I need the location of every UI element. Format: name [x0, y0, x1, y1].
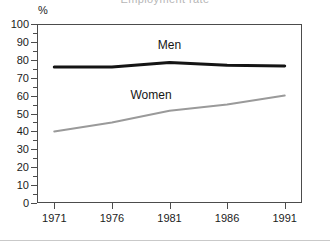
y-axis-tick-major — [31, 114, 37, 115]
y-axis-tick-minor — [33, 140, 37, 141]
x-axis-tick — [170, 203, 171, 209]
y-axis-tick-major — [31, 149, 37, 150]
x-axis-tick — [227, 203, 228, 209]
x-axis-tick-label: 1986 — [215, 212, 239, 224]
y-axis-tick-minor — [33, 176, 37, 177]
y-axis-tick-major — [31, 167, 37, 168]
y-axis-tick-major — [31, 185, 37, 186]
x-axis-tick-label: 1971 — [42, 212, 66, 224]
y-axis-tick-minor — [33, 194, 37, 195]
y-axis-tick-minor — [33, 87, 37, 88]
x-axis-tick — [285, 203, 286, 209]
figure-container: Employment rate % 0102030405060708090100… — [0, 0, 330, 244]
y-axis-tick-label: 70 — [17, 72, 29, 84]
y-axis-tick-label: 60 — [17, 90, 29, 102]
y-axis-tick-label: 80 — [17, 54, 29, 66]
y-axis-tick-label: 100 — [11, 18, 29, 30]
cropped-title-text: Employment rate — [0, 0, 330, 5]
y-axis-tick-label: 50 — [17, 108, 29, 120]
y-axis-tick-label: 10 — [17, 179, 29, 191]
x-axis-tick — [112, 203, 113, 209]
x-axis: 19711976198119861991 — [0, 203, 330, 244]
y-axis-tick-minor — [33, 122, 37, 123]
x-axis-tick-label: 1981 — [157, 212, 181, 224]
y-axis-tick-major — [31, 96, 37, 97]
y-axis-tick-major — [31, 42, 37, 43]
y-axis-tick-label: 40 — [17, 125, 29, 137]
y-axis-tick-label: 30 — [17, 143, 29, 155]
y-axis-tick-major — [31, 60, 37, 61]
y-axis-tick-minor — [33, 69, 37, 70]
y-axis-unit-label: % — [38, 4, 48, 16]
y-axis-tick-label: 90 — [17, 36, 29, 48]
y-axis-tick-label: 20 — [17, 161, 29, 173]
x-axis-tick-label: 1991 — [272, 212, 296, 224]
y-axis-tick-minor — [33, 33, 37, 34]
cropped-title-remnant: Employment rate — [0, 0, 330, 6]
y-axis-tick-minor — [33, 51, 37, 52]
figure-bottom-rule — [0, 240, 330, 241]
x-axis-tick-label: 1976 — [100, 212, 124, 224]
series-label-women: Women — [130, 88, 171, 102]
y-axis-tick-major — [31, 78, 37, 79]
x-axis-tick — [54, 203, 55, 209]
series-label-men: Men — [158, 38, 181, 52]
y-axis-tick-major — [31, 131, 37, 132]
y-axis-tick-major — [31, 24, 37, 25]
y-axis-tick-minor — [33, 158, 37, 159]
y-axis-tick-minor — [33, 105, 37, 106]
